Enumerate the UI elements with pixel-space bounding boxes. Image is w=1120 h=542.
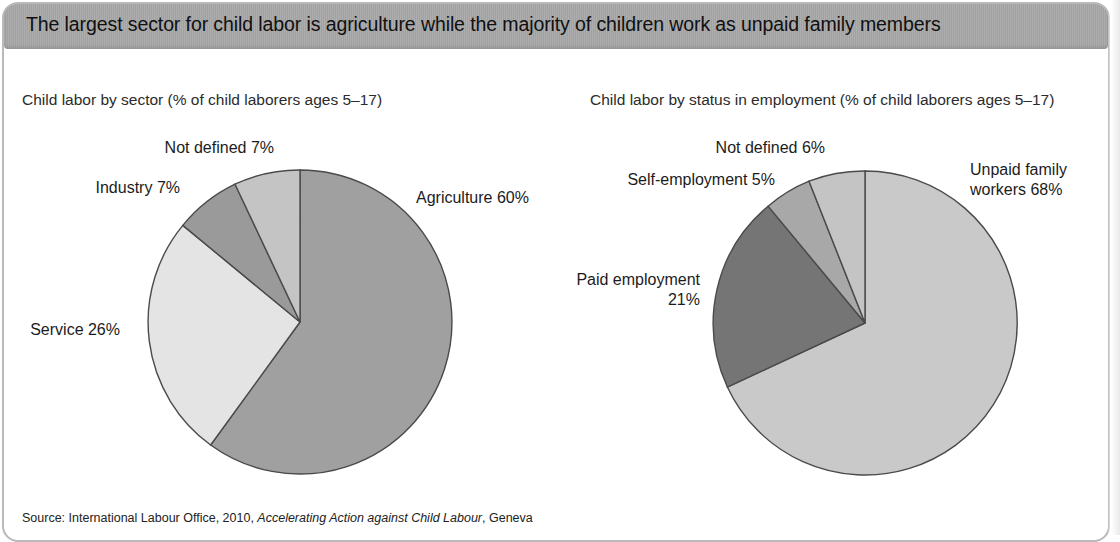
left-pie-chart: Not defined 7% Industry 7% Service 26% A…: [0, 120, 560, 490]
left-label-service: Service 26%: [0, 320, 120, 340]
left-label-industry: Industry 7%: [0, 178, 180, 198]
right-label-not-defined: Not defined 6%: [655, 138, 825, 158]
right-label-self-employment: Self-employment 5%: [550, 170, 775, 190]
source-prefix: Source: International Labour Office, 201…: [22, 511, 257, 525]
left-chart-subtitle: Child labor by sector (% of child labore…: [22, 91, 382, 109]
right-label-paid-employment: Paid employment 21%: [500, 270, 700, 309]
source-suffix: , Geneva: [482, 511, 533, 525]
source-note: Source: International Labour Office, 201…: [22, 511, 533, 525]
right-label-unpaid-family-workers: Unpaid family workers 68%: [970, 160, 1120, 199]
left-label-not-defined: Not defined 7%: [104, 138, 274, 158]
right-pie-chart: Not defined 6% Self-employment 5% Paid e…: [560, 120, 1120, 490]
source-work-title: Accelerating Action against Child Labour: [257, 511, 482, 525]
left-pie-svg: [0, 120, 560, 490]
figure-title-banner: The largest sector for child labor is ag…: [4, 4, 1108, 49]
right-chart-subtitle: Child labor by status in employment (% o…: [590, 91, 1054, 109]
figure-title: The largest sector for child labor is ag…: [26, 13, 941, 36]
